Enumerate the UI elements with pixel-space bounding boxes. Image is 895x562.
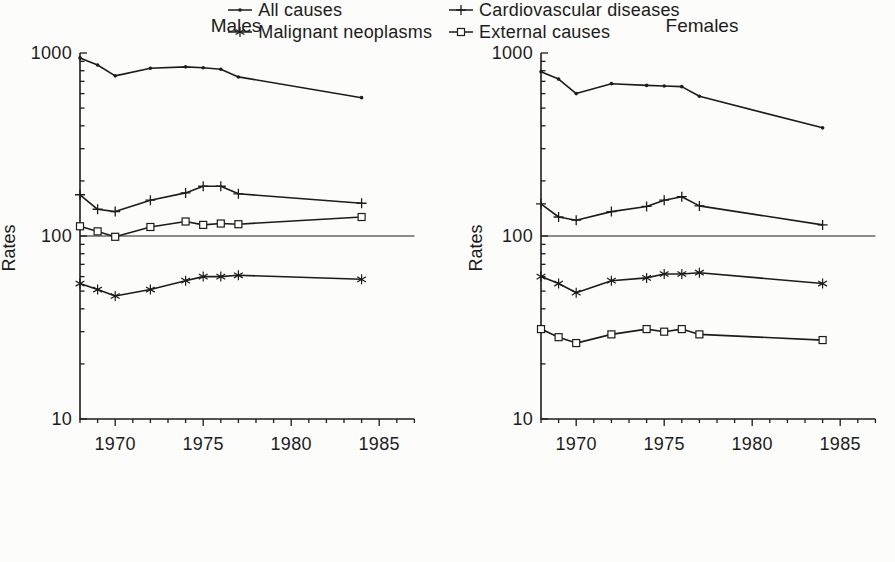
y-tick-label: 10 <box>51 409 72 429</box>
plus-marker-icon <box>357 198 367 208</box>
dot-marker-icon <box>662 84 666 88</box>
square-marker-icon <box>112 233 119 240</box>
square-marker-icon <box>235 221 242 228</box>
legend-item-all-causes: All causes <box>227 0 432 20</box>
asterisk-marker-icon <box>93 285 102 295</box>
square-marker-icon <box>77 223 84 230</box>
plus-marker-icon <box>642 201 652 211</box>
x-tick-label: 1980 <box>271 434 312 454</box>
mortality-rates-figure: MalesRates1000100101970197519801985Femal… <box>0 0 895 562</box>
x-tick-label: 1975 <box>644 434 685 454</box>
malignant-neoplasms-marker-icon <box>227 25 253 39</box>
square-marker-icon <box>200 221 207 228</box>
plus-marker-icon <box>216 181 226 191</box>
legend-item-external-causes: External causes <box>448 22 680 42</box>
chart-males: MalesRates1000100101970197519801985 <box>0 15 414 454</box>
plus-marker-icon <box>198 181 208 191</box>
plus-marker-icon <box>110 207 120 217</box>
x-tick-label: 1970 <box>95 434 136 454</box>
dot-marker-icon <box>149 66 153 70</box>
dot-marker-icon <box>539 70 543 74</box>
dot-marker-icon <box>557 77 561 81</box>
x-tick-label: 1985 <box>820 434 861 454</box>
dot-marker-icon <box>360 96 364 100</box>
square-marker-icon <box>555 334 562 341</box>
asterisk-marker-icon <box>572 288 581 298</box>
square-marker-icon <box>538 326 545 333</box>
dot-marker-icon <box>645 84 649 88</box>
x-tick-label: 1985 <box>359 434 400 454</box>
square-marker-icon <box>696 331 703 338</box>
y-axis-label: Rates <box>466 224 486 271</box>
legend-item-cardiovascular-diseases: Cardiovascular diseases <box>448 0 680 20</box>
plus-marker-icon <box>694 201 704 211</box>
dual-line-charts: MalesRates1000100101970197519801985Femal… <box>0 0 895 478</box>
dot-marker-icon <box>238 8 242 12</box>
external-causes-marker-icon <box>448 25 474 39</box>
square-marker-icon <box>94 228 101 235</box>
plus-marker-icon <box>818 220 828 230</box>
x-ticks <box>80 419 414 426</box>
plus-marker-icon <box>606 207 616 217</box>
dot-marker-icon <box>219 67 223 71</box>
series-malignant-neoplasms <box>537 268 827 298</box>
square-marker-icon <box>458 29 465 36</box>
y-tick-label: 100 <box>502 226 533 246</box>
series-cardiovascular-diseases <box>75 181 367 216</box>
legend-label-all-causes: All causes <box>258 0 342 20</box>
square-marker-icon <box>678 326 685 333</box>
plus-marker-icon <box>456 5 466 15</box>
dot-marker-icon <box>698 94 702 98</box>
square-marker-icon <box>819 337 826 344</box>
legend: All causes Cardiovascular diseases Malig… <box>0 0 895 42</box>
square-marker-icon <box>643 326 650 333</box>
dot-marker-icon <box>78 56 82 60</box>
x-tick-label: 1970 <box>556 434 597 454</box>
plus-marker-icon <box>145 195 155 205</box>
asterisk-marker-icon <box>554 279 563 289</box>
series-external-causes <box>538 326 827 347</box>
plus-marker-icon <box>233 189 243 199</box>
dot-marker-icon <box>184 65 188 69</box>
square-marker-icon <box>217 220 224 227</box>
series-malignant-neoplasms <box>76 270 366 301</box>
square-marker-icon <box>182 218 189 225</box>
all-causes-marker-icon <box>227 3 253 17</box>
series-all-causes <box>78 56 363 99</box>
y-tick-label: 1000 <box>31 43 72 63</box>
square-marker-icon <box>358 214 365 221</box>
plus-marker-icon <box>659 195 669 205</box>
legend-grid: All causes Cardiovascular diseases Malig… <box>227 0 680 42</box>
dot-marker-icon <box>96 63 100 67</box>
square-marker-icon <box>573 340 580 347</box>
y-ticks <box>541 53 548 419</box>
plus-marker-icon <box>571 215 581 225</box>
x-ticks <box>541 419 875 426</box>
legend-label-external-causes: External causes <box>479 22 610 42</box>
x-tick-label: 1980 <box>732 434 773 454</box>
y-tick-label: 10 <box>512 409 533 429</box>
dot-marker-icon <box>237 75 241 79</box>
legend-item-malignant-neoplasms: Malignant neoplasms <box>227 22 432 42</box>
dot-marker-icon <box>610 82 614 86</box>
dot-marker-icon <box>201 66 205 70</box>
square-marker-icon <box>608 331 615 338</box>
y-axis-label: Rates <box>0 224 19 271</box>
legend-label-cardiovascular-diseases: Cardiovascular diseases <box>479 0 680 20</box>
series-all-causes <box>539 70 824 130</box>
dot-marker-icon <box>680 85 684 89</box>
dot-marker-icon <box>821 126 825 130</box>
plus-marker-icon <box>181 188 191 198</box>
square-marker-icon <box>147 223 154 230</box>
y-tick-label: 1000 <box>492 43 533 63</box>
legend-label-malignant-neoplasms: Malignant neoplasms <box>258 22 432 42</box>
series-cardiovascular-diseases <box>536 192 828 230</box>
x-tick-label: 1975 <box>183 434 224 454</box>
square-marker-icon <box>661 328 668 335</box>
chart-females: FemalesRates1000100101970197519801985 <box>466 15 875 454</box>
y-tick-label: 100 <box>41 226 72 246</box>
y-ticks <box>80 53 87 419</box>
cardiovascular-diseases-marker-icon <box>448 3 474 17</box>
asterisk-marker-icon <box>76 279 85 289</box>
plus-marker-icon <box>677 192 687 202</box>
